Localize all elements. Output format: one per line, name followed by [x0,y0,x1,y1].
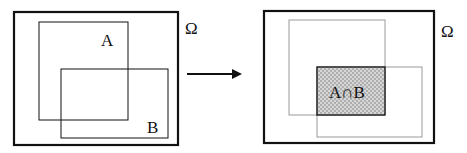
set-b-label: B [147,119,158,136]
left-set-a-rect [39,22,128,120]
venn-diagram-canvas [0,0,467,153]
intersection-label: A∩B [329,84,365,101]
left-universe-label: Ω [185,20,198,37]
set-a-label: A [101,32,113,49]
arrow-right-icon [187,69,242,79]
right-universe-label: Ω [441,23,454,40]
